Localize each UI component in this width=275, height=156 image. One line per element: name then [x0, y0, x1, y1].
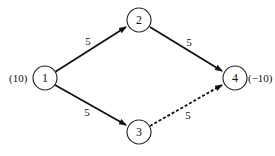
edge-1-2 [55, 27, 126, 72]
supply-label-node-1: (10) [9, 72, 28, 85]
node-4: 4 [223, 66, 247, 90]
edge-label-2-4: 5 [186, 36, 192, 48]
edge-1-3 [55, 85, 126, 125]
demand-label-node-4: (−10) [248, 72, 273, 85]
node-1: 1 [33, 66, 57, 90]
edge-label-1-2: 5 [85, 35, 91, 47]
network-diagram: 5 5 5 5 1 2 3 4 (10) (−10) [0, 0, 275, 156]
node-2-label: 2 [136, 13, 142, 27]
edge-2-4 [150, 27, 222, 71]
node-2: 2 [127, 8, 151, 32]
node-3: 3 [127, 120, 151, 144]
node-1-label: 1 [42, 71, 48, 85]
edge-label-1-3: 5 [84, 106, 90, 118]
node-4-label: 4 [232, 71, 238, 85]
edge-label-3-4: 5 [185, 109, 191, 121]
node-3-label: 3 [136, 125, 142, 139]
